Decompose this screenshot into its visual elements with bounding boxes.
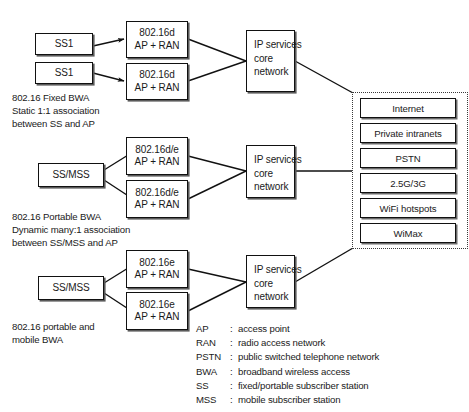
service-label: WiMax	[394, 228, 423, 239]
service-2-5g-3g[interactable]: 2.5G/3G	[360, 173, 456, 193]
legend-separator: :	[230, 322, 238, 336]
legend-definition: public switched telephone network	[238, 350, 379, 364]
access-point-802-16d-b[interactable]: 802.16d AP + RAN	[126, 63, 188, 100]
service-wifi-hotspots[interactable]: WiFi hotspots	[360, 198, 456, 218]
ap-role-label: AP + RAN	[135, 82, 180, 95]
core-network-portable-bwa[interactable]: IP services core network	[246, 145, 295, 198]
core-line-1: IP services	[254, 263, 294, 277]
legend-separator: :	[230, 379, 238, 393]
legend-separator: :	[230, 350, 238, 364]
station-ss-mss-portable[interactable]: SS/MSS	[38, 163, 104, 187]
ap-role-label: AP + RAN	[135, 156, 180, 169]
link-ss1b-to-ap1b	[93, 73, 124, 81]
core-line-1: IP services	[254, 38, 294, 52]
link-core1-to-services	[295, 61, 353, 93]
service-label: 2.5G/3G	[390, 178, 426, 189]
service-wimax[interactable]: WiMax	[360, 223, 456, 243]
caption-line-3: between SS/MSS and AP	[12, 236, 130, 249]
link-ap2b-to-core2	[188, 171, 246, 199]
caption-line-3: between SS and AP	[12, 117, 99, 130]
abbreviation-legend: AP : access point RAN : radio access net…	[196, 322, 379, 407]
caption-line-1: 802.16 Fixed BWA	[12, 91, 99, 104]
core-network-mobile-bwa[interactable]: IP services core network	[246, 255, 295, 308]
legend-abbr: PSTN	[196, 350, 230, 364]
legend-item-mss: MSS : mobile subscriber station	[196, 393, 379, 407]
caption-mobile-bwa: 802.16 portable and mobile BWA	[12, 320, 95, 346]
core-line-3: network	[254, 65, 294, 79]
core-line-1: IP services	[254, 153, 294, 167]
link-ap3a-to-core3	[188, 269, 246, 282]
service-label: Internet	[392, 103, 424, 114]
legend-abbr: AP	[196, 322, 230, 336]
legend-abbr: MSS	[196, 393, 230, 407]
service-label: WiFi hotspots	[380, 203, 437, 214]
access-point-802-16de-b[interactable]: 802.16d/e AP + RAN	[126, 180, 188, 218]
caption-portable-bwa: 802.16 Portable BWA Dynamic many:1 assoc…	[12, 210, 130, 250]
core-network-fixed-bwa[interactable]: IP services core network	[246, 30, 295, 92]
station-ss1-a[interactable]: SS1	[35, 33, 93, 55]
station-ss1-b[interactable]: SS1	[35, 62, 93, 84]
legend-separator: :	[230, 393, 238, 407]
link-ap1a-to-core1	[188, 39, 246, 61]
service-private-intranets[interactable]: Private intranets	[360, 123, 456, 143]
legend-item-ss: SS : fixed/portable subscriber station	[196, 379, 379, 393]
station-label: SS/MSS	[52, 169, 89, 182]
legend-definition: fixed/portable subscriber station	[238, 379, 379, 393]
access-point-802-16e-b[interactable]: 802.16e AP + RAN	[126, 292, 188, 330]
station-label: SS1	[55, 67, 74, 80]
link-ap1b-to-core1	[188, 61, 246, 81]
core-line-3: network	[254, 180, 294, 194]
legend-item-bwa: BWA : broadband wireless access	[196, 365, 379, 379]
legend-abbr: BWA	[196, 365, 230, 379]
link-ss1a-to-ap1a	[93, 39, 124, 46]
legend-item-ap: AP : access point	[196, 322, 379, 336]
core-line-2: core	[254, 167, 294, 181]
service-label: PSTN	[395, 153, 420, 164]
ap-standard-label: 802.16d/e	[135, 144, 179, 157]
ap-standard-label: 802.16d	[139, 27, 174, 40]
legend-abbr: SS	[196, 379, 230, 393]
caption-line-2: Static 1:1 association	[12, 104, 99, 117]
core-line-3: network	[254, 290, 294, 304]
core-line-2: core	[254, 277, 294, 291]
legend-definition: access point	[238, 322, 379, 336]
service-internet[interactable]: Internet	[360, 98, 456, 118]
legend-definition: radio access network	[238, 336, 379, 350]
link-ap2a-to-core2	[188, 156, 246, 171]
access-point-802-16e-a[interactable]: 802.16e AP + RAN	[126, 250, 188, 288]
legend-definition: mobile subscriber station	[238, 393, 379, 407]
access-point-802-16de-a[interactable]: 802.16d/e AP + RAN	[126, 137, 188, 175]
legend-separator: :	[230, 365, 238, 379]
legend-definition: broadband wireless access	[238, 365, 379, 379]
station-label: SS/MSS	[52, 282, 89, 295]
ap-standard-label: 802.16d	[139, 69, 174, 82]
legend-item-ran: RAN : radio access network	[196, 336, 379, 350]
diagram-canvas: SS1 SS1 802.16d AP + RAN 802.16d AP + RA…	[0, 0, 469, 412]
legend-abbr: RAN	[196, 336, 230, 350]
ap-standard-label: 802.16d/e	[135, 187, 179, 200]
caption-line-1: 802.16 Portable BWA	[12, 210, 130, 223]
legend-item-pstn: PSTN : public switched telephone network	[196, 350, 379, 364]
caption-line-2: Dynamic many:1 association	[12, 223, 130, 236]
ap-role-label: AP + RAN	[135, 269, 180, 282]
station-ss-mss-mobile[interactable]: SS/MSS	[38, 276, 104, 300]
ap-role-label: AP + RAN	[135, 40, 180, 53]
service-pstn[interactable]: PSTN	[360, 148, 456, 168]
caption-fixed-bwa: 802.16 Fixed BWA Static 1:1 association …	[12, 91, 99, 131]
access-point-802-16d-a[interactable]: 802.16d AP + RAN	[126, 21, 188, 58]
ap-standard-label: 802.16e	[139, 257, 174, 270]
ap-standard-label: 802.16e	[139, 299, 174, 312]
caption-line-1: 802.16 portable and	[12, 320, 95, 333]
core-line-2: core	[254, 52, 294, 66]
station-label: SS1	[55, 38, 74, 51]
legend-separator: :	[230, 336, 238, 350]
caption-line-2: mobile BWA	[12, 333, 95, 346]
ap-role-label: AP + RAN	[135, 311, 180, 324]
service-label: Private intranets	[374, 128, 442, 139]
link-ap3b-to-core3	[188, 282, 246, 311]
ap-role-label: AP + RAN	[135, 199, 180, 212]
link-core3-to-services	[295, 248, 353, 282]
